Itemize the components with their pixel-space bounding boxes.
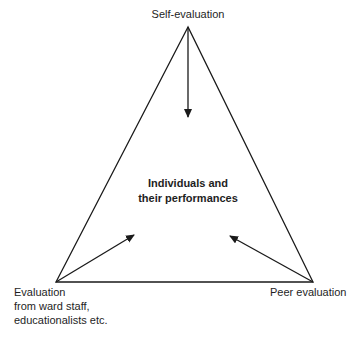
staff-evaluation-label: Evaluation from ward staff, educationali…: [14, 285, 108, 327]
arrow-peer-evaluation: [230, 236, 313, 282]
peer-evaluation-label: Peer evaluation: [270, 285, 346, 299]
center-label-line-2: their performances: [112, 191, 264, 206]
staff-evaluation-line-2: from ward staff,: [14, 299, 108, 313]
evaluation-triangle-diagram: Self-evaluation Individuals and their pe…: [0, 0, 362, 339]
staff-evaluation-line-3: educationalists etc.: [14, 313, 108, 327]
triangle-outline: [56, 27, 313, 282]
staff-evaluation-line-1: Evaluation: [14, 285, 108, 299]
center-label-line-1: Individuals and: [112, 176, 264, 191]
self-evaluation-label: Self-evaluation: [0, 7, 362, 21]
center-label: Individuals and their performances: [112, 176, 264, 206]
